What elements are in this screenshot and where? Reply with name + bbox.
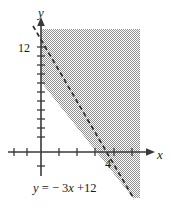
x-axis-label: x [157,148,163,161]
y-axis-label: y [38,6,44,19]
equation-constant: +12 [77,181,97,195]
equation-annotation: y = − 3x +12 [33,182,97,195]
equation-minus: − [52,181,59,195]
equation-equals: = [42,181,49,195]
x-tick-label-4: 4 [105,158,111,170]
y-tick-label-12: 12 [18,42,30,54]
coordinate-plane-svg [0,0,174,208]
graph-figure: y x 12 4 y = − 3x +12 [0,0,174,208]
shaded-solution-region [41,29,140,198]
